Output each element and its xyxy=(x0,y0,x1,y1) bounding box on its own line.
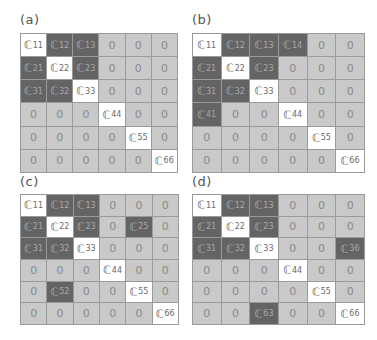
matrix-cell-zero: 0 xyxy=(308,303,336,324)
matrix-cell-zero: 0 xyxy=(279,282,307,303)
matrix-cell-zero: 0 xyxy=(99,80,124,102)
stiffness-symbol: ℂ xyxy=(283,38,291,52)
cell-index: 31 xyxy=(206,244,216,253)
matrix-cell-zero: 0 xyxy=(336,34,364,56)
matrix-cell-zero: 0 xyxy=(73,103,98,125)
stiffness-symbol: ℂ xyxy=(77,38,85,52)
matrix-cell-diagonal: ℂ11 xyxy=(21,34,46,56)
panel-label: (c) xyxy=(20,174,39,189)
cell-index: 22 xyxy=(59,64,69,73)
matrix-cell-zero: 0 xyxy=(279,303,307,324)
matrix-cell-coupling: ℂ63 xyxy=(250,303,278,324)
matrix-cell-zero: 0 xyxy=(126,260,151,281)
stiffness-symbol: ℂ xyxy=(255,220,263,234)
matrix-cell-zero: 0 xyxy=(21,282,46,303)
matrix-cell-zero: 0 xyxy=(336,103,364,125)
matrix-cell-coupling: ℂ52 xyxy=(47,282,72,303)
matrix-cell-zero: 0 xyxy=(193,260,221,281)
matrix-cell-zero: 0 xyxy=(126,103,151,125)
matrix-cell-diagonal: ℂ66 xyxy=(336,150,364,172)
matrix-cell-zero: 0 xyxy=(73,150,98,172)
matrix-cell-coupling: ℂ13 xyxy=(250,34,278,56)
stiffness-symbol: ℂ xyxy=(103,263,111,277)
cell-index: 33 xyxy=(263,244,273,253)
matrix-cell-coupling: ℂ32 xyxy=(222,80,250,102)
stiffness-symbol: ℂ xyxy=(129,131,137,145)
matrix-cell-zero: 0 xyxy=(100,238,125,259)
panel-label: (a) xyxy=(20,12,40,27)
matrix-cell-zero: 0 xyxy=(74,282,99,303)
matrix-cell-zero: 0 xyxy=(279,195,307,216)
stiffness-symbol: ℂ xyxy=(283,263,291,277)
matrix-cell-coupling: ℂ21 xyxy=(193,57,221,79)
matrix-cell-zero: 0 xyxy=(100,282,125,303)
matrix-cell-coupling: ℂ36 xyxy=(336,238,364,259)
matrix-cell-diagonal: ℂ11 xyxy=(193,34,221,56)
cell-index: 21 xyxy=(206,64,216,73)
matrix-cell-diagonal: ℂ11 xyxy=(193,195,221,216)
cell-index: 23 xyxy=(263,222,273,231)
matrix-cell-coupling: ℂ12 xyxy=(47,195,72,216)
matrix-cell-zero: 0 xyxy=(153,217,178,238)
cell-index: 36 xyxy=(349,244,359,253)
matrix-cell-zero: 0 xyxy=(308,260,336,281)
matrix-cell-diagonal: ℂ66 xyxy=(152,150,177,172)
cell-index: 55 xyxy=(138,287,148,296)
matrix-cell-zero: 0 xyxy=(279,57,307,79)
cell-index: 66 xyxy=(165,309,175,318)
cell-index: 31 xyxy=(33,87,43,96)
cell-index: 44 xyxy=(292,266,302,275)
stiffness-matrix-c: ℂ11ℂ12ℂ13000ℂ21ℂ22ℂ230ℂ250ℂ31ℂ32ℂ3300000… xyxy=(20,194,179,325)
matrix-cell-zero: 0 xyxy=(152,34,177,56)
cell-index: 33 xyxy=(263,87,273,96)
cell-index: 25 xyxy=(138,222,148,231)
matrix-cell-coupling: ℂ23 xyxy=(73,57,98,79)
matrix-cell-diagonal: ℂ66 xyxy=(153,303,178,324)
stiffness-symbol: ℂ xyxy=(255,84,263,98)
cell-index: 11 xyxy=(206,41,216,50)
stiffness-symbol: ℂ xyxy=(50,61,58,75)
stiffness-symbol: ℂ xyxy=(197,220,205,234)
cell-index: 13 xyxy=(263,201,273,210)
matrix-cell-coupling: ℂ13 xyxy=(73,34,98,56)
stiffness-symbol: ℂ xyxy=(226,198,234,212)
matrix-cell-zero: 0 xyxy=(99,34,124,56)
matrix-cell-zero: 0 xyxy=(250,282,278,303)
cell-index: 33 xyxy=(85,87,95,96)
matrix-cell-zero: 0 xyxy=(126,80,151,102)
cell-index: 41 xyxy=(206,110,216,119)
matrix-cell-zero: 0 xyxy=(250,127,278,149)
stiffness-symbol: ℂ xyxy=(24,220,32,234)
cell-index: 66 xyxy=(164,156,174,165)
cell-index: 13 xyxy=(263,41,273,50)
matrix-cell-diagonal: ℂ22 xyxy=(222,217,250,238)
stiffness-symbol: ℂ xyxy=(77,242,85,256)
cell-index: 31 xyxy=(33,244,43,253)
stiffness-symbol: ℂ xyxy=(255,307,263,321)
stiffness-symbol: ℂ xyxy=(103,108,111,122)
cell-index: 66 xyxy=(349,156,359,165)
matrix-cell-zero: 0 xyxy=(126,195,151,216)
stiffness-symbol: ℂ xyxy=(51,220,59,234)
cell-index: 22 xyxy=(59,222,69,231)
matrix-cell-coupling: ℂ12 xyxy=(222,34,250,56)
matrix-cell-diagonal: ℂ33 xyxy=(250,80,278,102)
matrix-cell-zero: 0 xyxy=(100,303,125,324)
matrix-cell-zero: 0 xyxy=(308,57,336,79)
cell-index: 32 xyxy=(59,244,69,253)
matrix-cell-zero: 0 xyxy=(336,127,364,149)
cell-index: 12 xyxy=(235,41,245,50)
cell-index: 55 xyxy=(321,133,331,142)
matrix-cell-diagonal: ℂ66 xyxy=(336,303,364,324)
cell-index: 23 xyxy=(85,64,95,73)
matrix-cell-zero: 0 xyxy=(74,303,99,324)
matrix-cell-zero: 0 xyxy=(21,127,46,149)
matrix-cell-coupling: ℂ21 xyxy=(21,217,46,238)
matrix-cell-diagonal: ℂ33 xyxy=(250,238,278,259)
matrix-cell-coupling: ℂ14 xyxy=(279,34,307,56)
matrix-cell-zero: 0 xyxy=(308,195,336,216)
matrix-cell-coupling: ℂ13 xyxy=(250,195,278,216)
stiffness-symbol: ℂ xyxy=(226,61,234,75)
stiffness-symbol: ℂ xyxy=(155,154,163,168)
cell-index: 22 xyxy=(235,64,245,73)
